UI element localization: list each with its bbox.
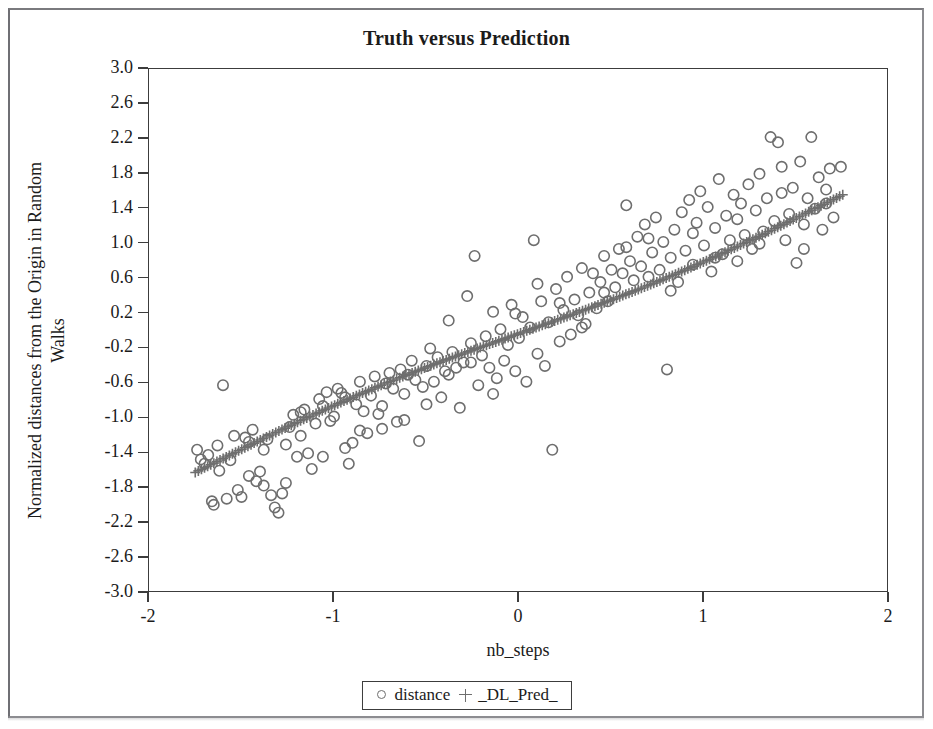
data-point-circle xyxy=(669,224,679,234)
y-tick-mark xyxy=(138,417,148,419)
data-point-circle xyxy=(395,364,405,374)
data-point-circle xyxy=(743,179,753,189)
y-tick-label: 0.2 xyxy=(111,302,134,323)
data-point-circle xyxy=(606,265,616,275)
data-point-circle xyxy=(255,466,265,476)
data-point-circle xyxy=(714,174,724,184)
data-point-circle xyxy=(577,263,587,273)
data-point-circle xyxy=(399,389,409,399)
x-tick-label: -2 xyxy=(141,606,156,627)
chart-legend: distance _DL_Pred_ xyxy=(361,681,571,710)
data-point-circle xyxy=(836,162,846,172)
data-point-circle xyxy=(691,218,701,228)
y-tick-mark xyxy=(138,242,148,244)
data-point-circle xyxy=(666,286,676,296)
data-point-circle xyxy=(529,235,539,245)
data-point-circle xyxy=(599,287,609,297)
data-point-circle xyxy=(344,459,354,469)
data-point-circle xyxy=(751,205,761,215)
data-point-circle xyxy=(732,256,742,266)
data-point-circle xyxy=(222,493,232,503)
data-point-circle xyxy=(673,277,683,287)
data-point-circle xyxy=(462,291,472,301)
data-point-circle xyxy=(521,376,531,386)
plus-marker-icon xyxy=(459,689,472,702)
data-point-circle xyxy=(510,366,520,376)
data-point-circle xyxy=(429,376,439,386)
y-tick-mark xyxy=(138,102,148,104)
y-tick-label: 0.6 xyxy=(111,267,134,288)
x-tick-label: 1 xyxy=(699,606,708,627)
y-tick-label: 3.0 xyxy=(111,57,134,78)
data-point-circle xyxy=(728,190,738,200)
data-point-circle xyxy=(547,445,557,455)
scanned-page: Truth versus Prediction Normalized dista… xyxy=(0,0,933,729)
data-point-circle xyxy=(588,268,598,278)
data-point-circle xyxy=(281,439,291,449)
data-point-circle xyxy=(421,399,431,409)
data-point-circle xyxy=(566,329,576,339)
y-tick-mark xyxy=(138,382,148,384)
data-point-circle xyxy=(732,214,742,224)
data-point-circle xyxy=(303,448,313,458)
data-point-circle xyxy=(209,500,219,510)
data-point-circle xyxy=(780,235,790,245)
data-point-circle xyxy=(703,202,713,212)
data-point-circle xyxy=(307,464,317,474)
data-point-circle xyxy=(418,382,428,392)
data-point-circle xyxy=(292,452,302,462)
data-point-circle xyxy=(828,212,838,222)
data-point-circle xyxy=(340,443,350,453)
data-point-circle xyxy=(488,307,498,317)
x-tick-mark xyxy=(887,592,889,602)
data-point-circle xyxy=(318,452,328,462)
x-tick-label: 2 xyxy=(884,606,893,627)
y-tick-mark xyxy=(138,486,148,488)
x-tick-label: -1 xyxy=(326,606,341,627)
data-point-circle xyxy=(747,244,757,254)
data-point-circle xyxy=(621,242,631,252)
data-point-circle xyxy=(281,478,291,488)
data-point-circle xyxy=(680,245,690,255)
data-point-circle xyxy=(266,490,276,500)
y-tick-mark xyxy=(138,172,148,174)
data-point-circle xyxy=(212,440,222,450)
data-point-circle xyxy=(477,350,487,360)
data-point-circle xyxy=(247,424,257,434)
data-point-circle xyxy=(654,265,664,275)
data-point-circle xyxy=(647,247,657,257)
data-point-circle xyxy=(414,436,424,446)
data-point-circle xyxy=(706,266,716,276)
y-tick-mark xyxy=(138,312,148,314)
data-point-circle xyxy=(370,371,380,381)
data-point-circle xyxy=(347,438,357,448)
data-point-circle xyxy=(599,251,609,261)
y-tick-label: -1.8 xyxy=(105,476,134,497)
data-point-circle xyxy=(569,294,579,304)
data-point-circle xyxy=(777,162,787,172)
data-point-circle xyxy=(773,137,783,147)
data-point-circle xyxy=(399,415,409,425)
data-point-circle xyxy=(640,219,650,229)
plot-frame xyxy=(148,68,888,592)
y-tick-label: -1.4 xyxy=(105,441,134,462)
data-point-circle xyxy=(499,355,509,365)
chart-figure: Truth versus Prediction Normalized dista… xyxy=(0,0,933,729)
y-tick-mark xyxy=(138,137,148,139)
x-axis-label: nb_steps xyxy=(148,640,888,661)
data-point-circle xyxy=(658,237,668,247)
data-point-circle xyxy=(617,268,627,278)
data-point-circle xyxy=(684,195,694,205)
y-tick-label: -2.2 xyxy=(105,511,134,532)
data-point-circle xyxy=(436,392,446,402)
data-point-circle xyxy=(229,431,239,441)
data-point-circle xyxy=(802,193,812,203)
data-point-circle xyxy=(765,132,775,142)
data-point-circle xyxy=(799,244,809,254)
data-point-circle xyxy=(218,380,228,390)
data-point-circle xyxy=(358,406,368,416)
data-point-circle xyxy=(688,228,698,238)
data-point-circle xyxy=(532,349,542,359)
legend-entry-dl-pred: _DL_Pred_ xyxy=(459,685,557,705)
data-point-circle xyxy=(473,380,483,390)
